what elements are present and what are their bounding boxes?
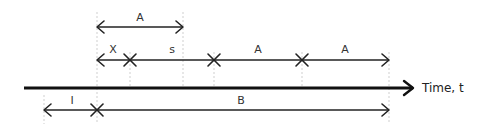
- label-top-a: A: [136, 11, 144, 24]
- label-bot-i: I: [70, 94, 73, 107]
- middle-row-intervals: X s A A: [97, 43, 389, 66]
- timeline-diagram: A X s A A Time, t: [0, 0, 482, 127]
- time-axis: Time, t: [24, 81, 464, 95]
- label-mid-s: s: [169, 43, 175, 56]
- label-mid-a2: A: [341, 43, 349, 56]
- bottom-row-intervals: I B: [44, 94, 389, 116]
- time-axis-label: Time, t: [421, 81, 464, 95]
- guide-lines: [44, 12, 389, 124]
- top-row-interval-a: A: [97, 11, 183, 33]
- label-bot-b: B: [237, 94, 245, 107]
- label-mid-x: X: [109, 43, 117, 56]
- label-mid-a1: A: [254, 43, 262, 56]
